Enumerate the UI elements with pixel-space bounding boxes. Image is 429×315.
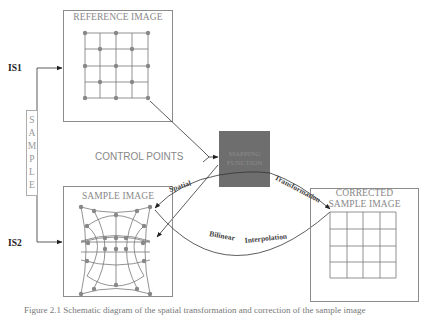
arc-label-bilinear: Bilinear xyxy=(209,229,237,242)
mapping-function-label: MAPPING FUNCTION xyxy=(219,150,270,168)
control-points-label: CONTROL POINTS xyxy=(95,151,184,162)
mapping-function-line1: MAPPING xyxy=(219,150,270,159)
bilinear-interpolation-arc xyxy=(155,210,330,256)
sample-letter: M xyxy=(26,140,38,153)
is1-label: IS1 xyxy=(8,63,22,73)
is1-arrow xyxy=(37,68,62,110)
sample-vertical-label: S A M P L E xyxy=(26,114,38,192)
figure-caption: Figure 2.1 Schematic diagram of the spat… xyxy=(24,305,365,315)
sample-image-panel xyxy=(64,187,173,297)
is2-arrow xyxy=(37,196,62,242)
corrected-title-line1: CORRECTED xyxy=(310,188,419,199)
corrected-title-line2: SAMPLE IMAGE xyxy=(310,199,419,210)
is2-label: IS2 xyxy=(8,238,22,248)
sample-letter: A xyxy=(26,127,38,140)
reference-image-panel xyxy=(64,11,173,122)
reference-image-title: REFERENCE IMAGE xyxy=(63,12,173,22)
sample-image-title: SAMPLE IMAGE xyxy=(63,191,173,201)
sample-control-points xyxy=(79,205,152,296)
arc-label-interpolation: Interpolation xyxy=(244,232,288,245)
reference-control-points xyxy=(83,31,150,100)
sample-letter: E xyxy=(26,179,38,192)
corrected-grid xyxy=(330,212,396,278)
mapping-function-line2: FUNCTION xyxy=(219,159,270,168)
sample-letter: S xyxy=(26,114,38,127)
corrected-image-title: CORRECTED SAMPLE IMAGE xyxy=(310,188,419,210)
sample-letter: L xyxy=(26,166,38,179)
sample-letter: P xyxy=(26,153,38,166)
